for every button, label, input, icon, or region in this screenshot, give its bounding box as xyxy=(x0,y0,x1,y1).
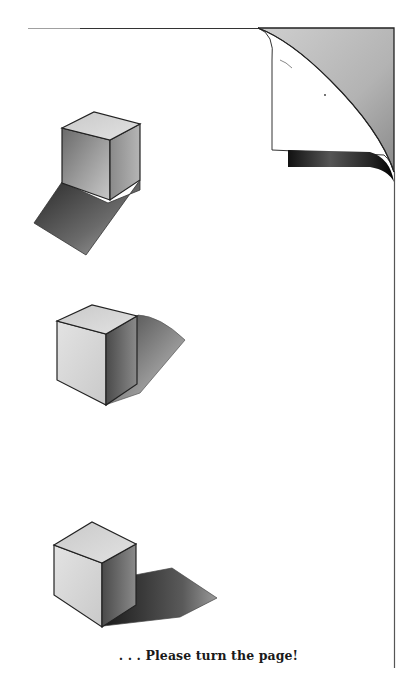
cube-illustration-3 xyxy=(54,522,217,627)
page-curl-icon xyxy=(258,28,394,182)
page-illustration xyxy=(0,0,413,673)
caption-text: . . . Please turn the page! xyxy=(119,648,298,663)
cube-illustration-1 xyxy=(34,112,140,255)
turn-page-caption: . . . Please turn the page! xyxy=(0,648,413,663)
cube-illustration-2 xyxy=(57,305,185,405)
sketch-page: . . . Please turn the page! xyxy=(0,0,413,673)
